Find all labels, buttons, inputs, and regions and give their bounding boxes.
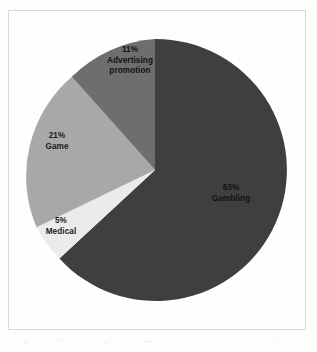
pie-label-game: 21% Game [26,131,88,152]
pie-label-advertising-promotion-percent: 11% [92,45,168,56]
pie-label-medical: 5% Medical [28,216,94,237]
pie-label-medical-percent: 5% [28,216,94,227]
pie-label-gambling-percent: 63% [196,183,266,194]
pie-label-game-percent: 21% [26,131,88,142]
pie-chart: 63% Gambling 11% Advertising promotion 2… [0,0,317,352]
pie-label-advertising-promotion-name-line1: Advertising [92,56,168,67]
pie-label-gambling-name: Gambling [196,194,266,205]
pie-label-game-name: Game [26,142,88,153]
page-canvas: 63% Gambling 11% Advertising promotion 2… [0,0,317,352]
pie-label-medical-name: Medical [28,227,94,238]
pie-label-gambling: 63% Gambling [196,183,266,204]
pie-label-advertising-promotion-name-line2: promotion [92,66,168,77]
pie-label-advertising-promotion: 11% Advertising promotion [92,45,168,77]
